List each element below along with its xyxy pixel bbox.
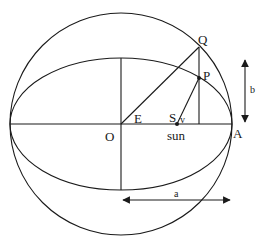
label-b: b bbox=[250, 84, 255, 95]
label-q: Q bbox=[198, 32, 208, 47]
label-a-point: A bbox=[233, 126, 243, 141]
kepler-orbit-diagram: Q P O E S v sun A a b bbox=[0, 0, 261, 244]
label-a: a bbox=[174, 188, 179, 199]
point-p bbox=[197, 76, 201, 80]
label-o: O bbox=[105, 129, 114, 144]
label-sun: sun bbox=[167, 128, 186, 143]
label-p: P bbox=[203, 68, 210, 83]
label-e: E bbox=[134, 111, 142, 126]
label-s: S bbox=[169, 110, 176, 125]
label-v: v bbox=[180, 114, 185, 125]
